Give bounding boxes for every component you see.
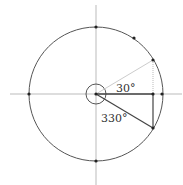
point-270deg — [94, 159, 97, 162]
point-0deg — [160, 92, 163, 95]
label-30: 30° — [116, 82, 136, 95]
point-180deg — [27, 92, 30, 95]
point-origin — [94, 92, 97, 95]
point-330deg — [151, 126, 154, 129]
point-cos — [151, 92, 154, 95]
point-30deg — [151, 58, 154, 61]
label-330: 330° — [101, 112, 128, 125]
unit-circle-diagram: 30° 330° — [0, 0, 183, 185]
point-60deg — [132, 36, 135, 39]
point-90deg — [94, 25, 97, 28]
